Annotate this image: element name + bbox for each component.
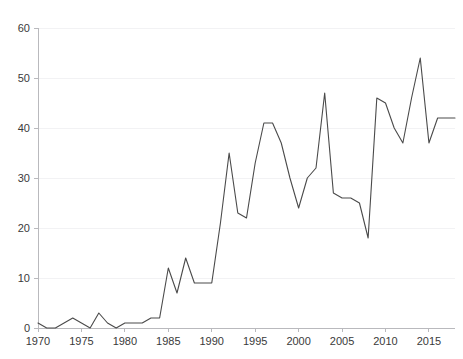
y-axis-tick-labels: 0102030405060 [18, 22, 30, 334]
x-tick-label-1980: 1980 [113, 335, 137, 347]
x-tick-label-1995: 1995 [243, 335, 267, 347]
line-chart: 0102030405060 19701975198019851990199520… [0, 0, 463, 359]
x-tick-label-1970: 1970 [26, 335, 50, 347]
y-tick-label-0: 0 [24, 322, 30, 334]
axes [34, 28, 455, 332]
x-tick-label-1990: 1990 [200, 335, 224, 347]
x-tick-label-1985: 1985 [156, 335, 180, 347]
chart-canvas: 0102030405060 19701975198019851990199520… [0, 0, 463, 359]
y-tick-label-50: 50 [18, 72, 30, 84]
data-series [38, 58, 455, 328]
y-tick-label-20: 20 [18, 222, 30, 234]
x-tick-label-2015: 2015 [417, 335, 441, 347]
series-line-1 [38, 58, 455, 328]
y-tick-label-60: 60 [18, 22, 30, 34]
x-axis-tick-labels: 1970197519801985199019952000200520102015 [26, 335, 441, 347]
x-tick-label-2000: 2000 [286, 335, 310, 347]
gridlines [38, 28, 455, 278]
y-tick-label-30: 30 [18, 172, 30, 184]
y-tick-label-10: 10 [18, 272, 30, 284]
x-tick-label-1975: 1975 [69, 335, 93, 347]
x-tick-label-2005: 2005 [330, 335, 354, 347]
y-tick-label-40: 40 [18, 122, 30, 134]
x-tick-label-2010: 2010 [373, 335, 397, 347]
